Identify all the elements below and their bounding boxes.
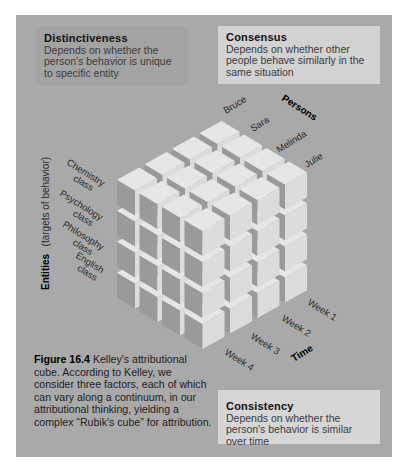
time-axis-title: Time bbox=[289, 342, 315, 364]
person-label: Bruce bbox=[221, 93, 248, 115]
figure-number: Figure 16.4 bbox=[34, 353, 90, 365]
entity-label-english: English class bbox=[69, 249, 107, 283]
cube-grid bbox=[117, 121, 307, 349]
week-label: Week 4 bbox=[223, 346, 256, 372]
persons-axis-title: Persons bbox=[280, 92, 320, 122]
entity-label-psychology: Psychology class bbox=[53, 187, 106, 231]
person-label: Julie bbox=[302, 150, 324, 170]
week-label: Week 1 bbox=[306, 296, 339, 322]
person-label: Sara bbox=[248, 113, 271, 133]
entities-axis-title: Entities (targets of behavior) bbox=[35, 157, 52, 290]
week-label: Week 2 bbox=[280, 312, 313, 338]
week-label: Week 3 bbox=[249, 330, 282, 356]
figure-caption: Figure 16.4 Kelley's attributional cube.… bbox=[34, 353, 214, 429]
person-label: Melinda bbox=[274, 127, 309, 154]
consistency-text: Depends on whether the person's behavior… bbox=[226, 412, 352, 447]
consistency-box: Consistency Depends on whether the perso… bbox=[218, 390, 380, 444]
